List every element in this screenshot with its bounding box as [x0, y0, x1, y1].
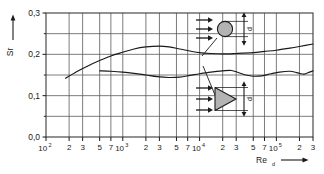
x-tick-label: 5 [251, 143, 256, 152]
x-tick-label: 2 [67, 143, 72, 152]
x-tick-label: 5 [97, 143, 102, 152]
y-tick-label: 0,0 [28, 132, 40, 142]
x-tick-label: 2 [220, 143, 225, 152]
y-tick-label: 0,2 [28, 49, 40, 59]
svg-text:4: 4 [202, 142, 205, 148]
cylinder-diameter-label: d [246, 27, 253, 31]
x-tick-label: 7 [185, 143, 190, 152]
svg-text:3: 3 [125, 142, 128, 148]
svg-text:10: 10 [115, 144, 124, 153]
y-axis-name: Sr [5, 48, 15, 57]
x-tick-label: 3 [157, 143, 162, 152]
svg-text:2: 2 [48, 142, 51, 148]
x-tick-label: 7 [109, 143, 114, 152]
x-tick-label: 3 [80, 143, 85, 152]
svg-text:10: 10 [38, 144, 47, 153]
x-axis-name-subscript: d [272, 161, 275, 167]
strouhal-number-chart: 0,00,10,20,3 10223571032357104235710523 [0, 0, 324, 174]
x-tick-label: 3 [311, 143, 316, 152]
svg-text:10: 10 [269, 144, 278, 153]
wedge-diameter-label: d [246, 97, 253, 101]
x-tick-label: 5 [174, 143, 179, 152]
svg-text:10: 10 [192, 144, 201, 153]
chart-canvas: 0,00,10,20,3 10223571032357104235710523 [0, 0, 324, 174]
x-tick-label: 2 [297, 143, 302, 152]
svg-text:5: 5 [279, 142, 282, 148]
y-tick-label: 0,1 [28, 91, 40, 101]
x-tick-label: 2 [144, 143, 149, 152]
y-tick-label: 0,3 [28, 8, 40, 18]
x-tick-label: 7 [262, 143, 267, 152]
cylinder-cross-section-icon [217, 21, 232, 36]
x-axis-name-base: Re [256, 155, 267, 165]
x-tick-label: 3 [234, 143, 239, 152]
